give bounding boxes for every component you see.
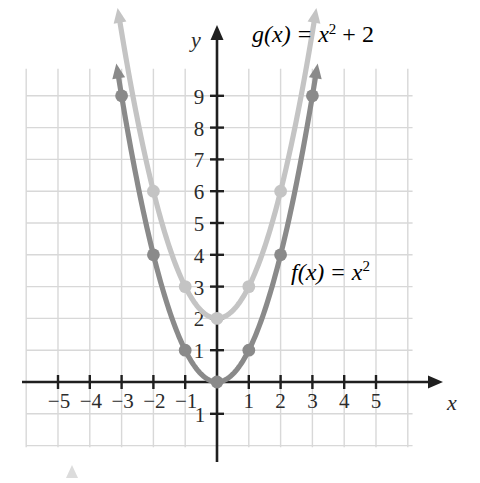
- x-tick-label: −3: [111, 389, 133, 413]
- data-point: [274, 248, 287, 261]
- figure-canvas: −5−4−3−2−1123451123456789 y x g(x)=x2+ 2…: [0, 0, 480, 483]
- x-tick-label: 1: [244, 389, 255, 413]
- x-tick-label: 4: [339, 389, 350, 413]
- data-point: [179, 280, 192, 293]
- y-tick-label: 7: [194, 148, 205, 172]
- y-tick-label: 9: [194, 85, 205, 109]
- y-tick-label: 6: [194, 180, 205, 204]
- x-tick-label: 2: [275, 389, 286, 413]
- y-tick-label: 1: [195, 403, 206, 427]
- data-point: [147, 248, 160, 261]
- x-tick-label: 5: [371, 389, 382, 413]
- data-point: [211, 376, 224, 389]
- data-point: [179, 344, 192, 357]
- y-tick-label: 5: [194, 212, 205, 236]
- y-tick-label: 4: [194, 244, 205, 268]
- curve-arrowhead-left-f: [112, 64, 125, 80]
- parabola-graph: −5−4−3−2−1123451123456789 y x g(x)=x2+ 2…: [0, 0, 480, 483]
- data-point: [211, 312, 224, 325]
- x-tick-label: −5: [48, 389, 70, 413]
- x-axis-arrowhead: [428, 376, 443, 389]
- data-point: [242, 344, 255, 357]
- data-point: [306, 89, 319, 102]
- y-tick-label: 1: [194, 339, 205, 363]
- data-point: [147, 185, 160, 198]
- y-tick-label: 3: [194, 276, 205, 300]
- triangle-marker: [66, 465, 78, 478]
- x-tick-label: −2: [143, 389, 165, 413]
- curve-arrowhead-right-f: [309, 64, 322, 80]
- y-axis-label: y: [189, 27, 201, 52]
- data-point: [242, 280, 255, 293]
- y-tick-label: 8: [194, 117, 205, 141]
- x-tick-label: −4: [80, 389, 103, 413]
- y-axis-arrowhead: [211, 25, 224, 40]
- x-axis-label: x: [446, 390, 457, 415]
- curve-arrowhead-left-g: [114, 8, 127, 24]
- data-point: [115, 89, 128, 102]
- data-point: [274, 185, 287, 198]
- f-function-label: f(x)=x2: [291, 258, 370, 285]
- x-tick-label: 3: [307, 389, 318, 413]
